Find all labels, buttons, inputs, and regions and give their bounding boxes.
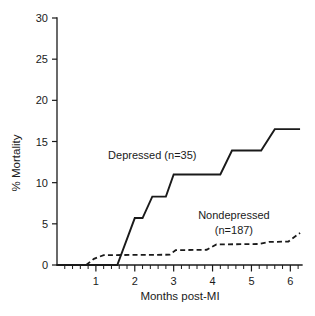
series-annotation: Nondepressed xyxy=(198,209,270,221)
y-tick-label: 20 xyxy=(36,94,48,106)
chart-figure: 051015202530 % Mortality 123456 Months p… xyxy=(0,0,315,316)
x-tick-label: 4 xyxy=(209,275,215,287)
series-annotation: (n=187) xyxy=(215,224,253,236)
y-tick-label: 0 xyxy=(42,259,48,271)
mortality-line-chart: 051015202530 % Mortality 123456 Months p… xyxy=(0,0,315,316)
y-tick-label: 25 xyxy=(36,53,48,65)
x-axis-title: Months post-MI xyxy=(140,290,219,302)
x-tick-label: 1 xyxy=(93,275,99,287)
y-tick-label: 30 xyxy=(36,12,48,24)
x-tick-label: 3 xyxy=(171,275,177,287)
y-tick-label: 10 xyxy=(36,177,48,189)
x-tick-label: 6 xyxy=(287,275,293,287)
x-tick-label: 5 xyxy=(248,275,254,287)
y-tick-label: 15 xyxy=(36,136,48,148)
y-tick-label: 5 xyxy=(42,218,48,230)
series-annotation: Depressed (n=35) xyxy=(108,149,196,161)
y-axis-title: % Mortality xyxy=(10,134,22,191)
x-tick-label: 2 xyxy=(132,275,138,287)
